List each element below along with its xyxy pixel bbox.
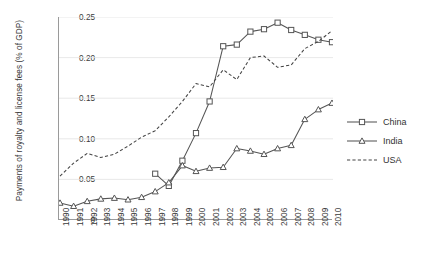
y-axis-title: Payments of royalty and license fees (% … (15, 6, 24, 216)
data-point-marker (302, 32, 307, 37)
data-point-marker (221, 44, 226, 49)
x-tick-label: 2010 (334, 208, 343, 226)
series-line-usa (60, 31, 332, 176)
legend-label: USA (383, 155, 402, 165)
x-tick-label: 1997 (158, 208, 167, 226)
x-tick-label: 2003 (239, 208, 248, 226)
plot-area (58, 17, 332, 220)
legend-item-india[interactable]: India (346, 131, 428, 150)
x-tick-label: 1995 (130, 208, 139, 226)
x-tick-label: 2008 (307, 208, 316, 226)
data-point-marker (289, 27, 294, 32)
x-tick-label: 2001 (212, 208, 221, 226)
data-point-marker (275, 20, 280, 25)
x-tick-label: 2009 (321, 208, 330, 226)
x-tick-label: 1990 (62, 208, 71, 226)
plot-canvas (59, 17, 333, 220)
legend-symbol-icon (346, 135, 378, 147)
x-tick-label: 2004 (253, 208, 262, 226)
data-point-marker (302, 116, 308, 121)
legend-label: China (383, 117, 407, 127)
x-tick-label: 1993 (103, 208, 112, 226)
series-line-india (60, 103, 332, 206)
x-tick-label: 2005 (266, 208, 275, 226)
legend-symbol-icon (346, 116, 378, 128)
x-tick-label: 2006 (280, 208, 289, 226)
data-point-marker (207, 99, 212, 104)
chart-legend: ChinaIndiaUSA (346, 112, 428, 169)
data-point-marker (261, 27, 266, 32)
x-tick-label: 1992 (90, 208, 99, 226)
legend-item-usa[interactable]: USA (346, 150, 428, 169)
x-tick-label: 1998 (171, 208, 180, 226)
x-tick-label: 2000 (198, 208, 207, 226)
data-point-marker (152, 188, 158, 193)
legend-label: India (383, 136, 403, 146)
legend-item-china[interactable]: China (346, 112, 428, 131)
data-point-marker (234, 145, 240, 150)
x-tick-label: 2007 (294, 208, 303, 226)
data-point-marker (248, 29, 253, 34)
chart-root: Payments of royalty and license fees (% … (0, 0, 429, 274)
x-tick-label: 1991 (76, 208, 85, 226)
data-point-marker (329, 100, 333, 105)
x-tick-label: 2002 (226, 208, 235, 226)
x-tick-label: 1999 (185, 208, 194, 226)
data-point-marker (315, 106, 321, 111)
x-tick-label: 1996 (144, 208, 153, 226)
data-point-marker (288, 142, 294, 147)
data-point-marker (193, 131, 198, 136)
data-point-marker (153, 171, 158, 176)
x-tick-label: 1994 (117, 208, 126, 226)
data-point-marker (329, 40, 333, 45)
data-point-marker (234, 42, 239, 47)
legend-symbol-icon (346, 154, 378, 166)
data-point-marker (59, 200, 63, 205)
